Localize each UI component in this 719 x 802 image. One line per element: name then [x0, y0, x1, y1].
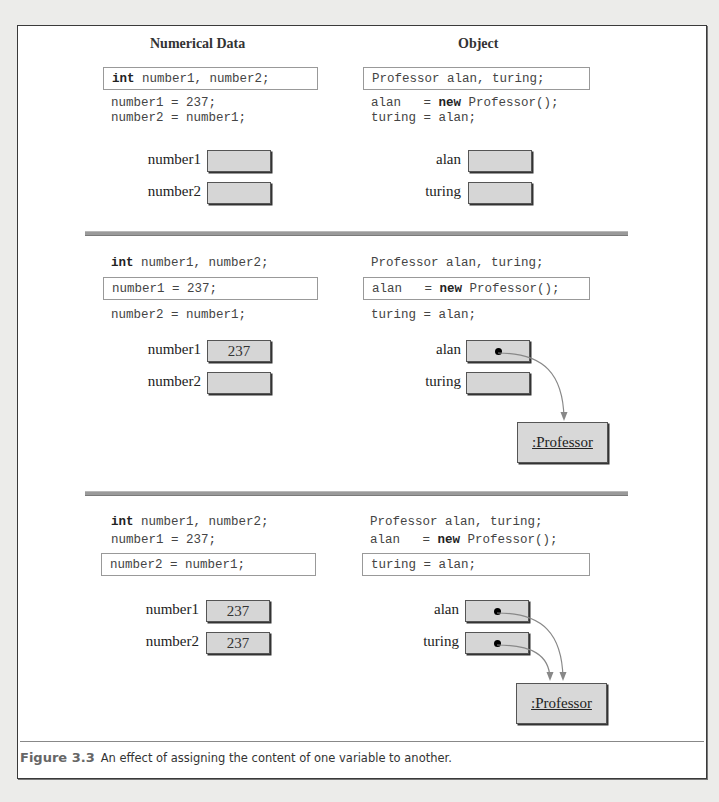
code-line: Professor alan, turing; [370, 515, 543, 530]
code-line: Professor alan, turing; [372, 72, 545, 87]
variable-label: number1 [148, 341, 201, 358]
code-line: alan = new Professor(); [372, 282, 560, 297]
highlighted-statement-box: number2 = number1; [101, 553, 316, 576]
code-line: int number1, number2; [111, 256, 269, 271]
code-line: number1 = 237; [112, 282, 217, 297]
panel-divider [85, 491, 628, 496]
variable-cell-alan [468, 150, 532, 172]
heading-numerical-data: Numerical Data [150, 36, 245, 52]
variable-label: turing [423, 633, 459, 650]
code-line: alan = new Professor(); [371, 96, 559, 111]
variable-label: number2 [148, 183, 201, 200]
figure-caption: Figure 3.3An effect of assigning the con… [20, 750, 452, 765]
variable-cell-turing [466, 372, 530, 394]
variable-cell-number2 [207, 372, 271, 394]
code-line: turing = alan; [371, 308, 476, 323]
code-line: turing = alan; [371, 111, 476, 126]
variable-cell-number2: 237 [206, 632, 270, 654]
figure-frame [17, 25, 707, 779]
figure-number: Figure 3.3 [20, 750, 95, 765]
highlighted-statement-box: turing = alan; [362, 553, 590, 576]
variable-cell-number2 [207, 182, 271, 204]
variable-label: number2 [146, 633, 199, 650]
highlighted-statement-box: number1 = 237; [103, 277, 318, 300]
code-line: number1 = 237; [111, 533, 216, 548]
code-line: int number1, number2; [112, 72, 270, 87]
panel-divider [85, 231, 628, 236]
variable-cell-alan [466, 340, 530, 362]
highlighted-statement-box: alan = new Professor(); [363, 277, 590, 300]
variable-label: number1 [148, 151, 201, 168]
code-line: Professor alan, turing; [371, 256, 544, 271]
variable-label: alan [436, 151, 461, 168]
reference-dot-icon [494, 608, 501, 615]
variable-label: turing [425, 373, 461, 390]
professor-object: :Professor [517, 422, 608, 463]
variable-label: alan [434, 601, 459, 618]
code-line: number1 = 237; [111, 96, 216, 111]
variable-label: turing [425, 183, 461, 200]
caption-text: An effect of assigning the content of on… [101, 751, 452, 765]
code-line: number2 = number1; [111, 308, 246, 323]
code-line: int number1, number2; [111, 515, 269, 530]
code-line: number2 = number1; [111, 111, 246, 126]
reference-dot-icon [494, 640, 501, 647]
variable-cell-turing [468, 182, 532, 204]
reference-dot-icon [495, 348, 502, 355]
variable-cell-number1 [207, 150, 271, 172]
variable-cell-number1: 237 [207, 340, 271, 362]
highlighted-statement-box: Professor alan, turing; [363, 67, 590, 90]
variable-label: number2 [148, 373, 201, 390]
code-line: turing = alan; [371, 558, 476, 573]
variable-cell-number1: 237 [206, 600, 270, 622]
variable-cell-turing [465, 632, 529, 654]
professor-object: :Professor [516, 683, 607, 724]
variable-label: number1 [146, 601, 199, 618]
variable-cell-alan [465, 600, 529, 622]
heading-object: Object [458, 36, 498, 52]
code-line: number2 = number1; [110, 558, 245, 573]
code-line: alan = new Professor(); [370, 533, 558, 548]
variable-label: alan [436, 341, 461, 358]
highlighted-statement-box: int number1, number2; [103, 67, 318, 90]
caption-rule [20, 741, 704, 742]
